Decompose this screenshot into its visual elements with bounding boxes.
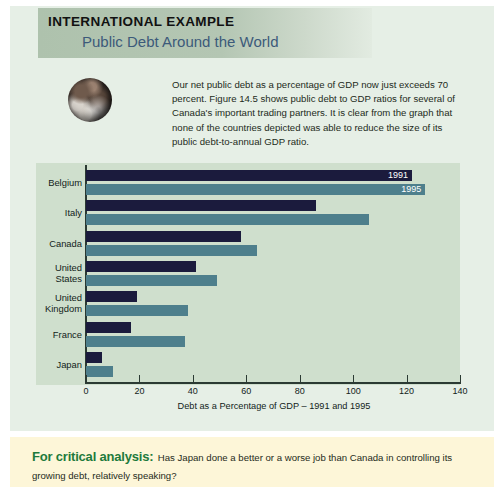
x-tick-mark <box>193 375 194 383</box>
x-tick-label: 40 <box>188 386 198 396</box>
legend-label-1991: 1991 <box>386 170 410 181</box>
bar-1995-france <box>86 336 185 347</box>
bar-1995-belgium <box>86 184 425 195</box>
eyebrow-title: INTERNATIONAL EXAMPLE <box>48 14 234 29</box>
bar-1991-italy <box>86 200 316 211</box>
chart-x-axis-title: Debt as a Percentage of GDP – 1991 and 1… <box>86 401 462 411</box>
bar-1991-japan <box>86 352 102 363</box>
x-tick-mark <box>407 375 408 383</box>
x-tick-label: 0 <box>83 386 88 396</box>
bar-1991-canada <box>86 231 241 242</box>
category-label-united-kingdom: UnitedKingdom <box>45 292 82 314</box>
bar-1991-united-kingdom <box>86 291 137 302</box>
bar-1991-united-states <box>86 261 196 272</box>
page-title: Public Debt Around the World <box>82 33 279 50</box>
x-tick-label: 120 <box>399 386 414 396</box>
figure-page: INTERNATIONAL EXAMPLE Public Debt Around… <box>0 0 504 494</box>
legend-label-1995: 1995 <box>399 184 423 195</box>
x-tick-mark <box>300 375 301 383</box>
category-label-canada: Canada <box>49 238 82 249</box>
x-tick-label: 60 <box>241 386 251 396</box>
x-tick-mark <box>86 375 87 383</box>
category-label-japan: Japan <box>56 359 82 370</box>
bar-1995-japan <box>86 366 113 377</box>
x-tick-label: 20 <box>134 386 144 396</box>
x-tick-label: 80 <box>295 386 305 396</box>
x-tick-label: 140 <box>452 386 467 396</box>
category-label-belgium: Belgium <box>48 177 82 188</box>
category-label-italy: Italy <box>65 207 82 218</box>
category-label-united-states: UnitedStates <box>55 262 82 284</box>
bar-1991-france <box>86 322 131 333</box>
critical-analysis-inner: For critical analysis: Has Japan done a … <box>32 447 480 483</box>
bar-1995-united-states <box>86 275 217 286</box>
x-tick-mark <box>246 375 247 383</box>
x-tick-mark <box>353 375 354 383</box>
bar-1995-italy <box>86 214 369 225</box>
bar-1991-belgium <box>86 170 412 181</box>
critical-analysis-label: For critical analysis: <box>32 449 153 464</box>
bar-1995-united-kingdom <box>86 305 188 316</box>
intro-paragraph: Our net public debt as a percentage of G… <box>172 78 468 149</box>
x-tick-mark <box>460 375 461 383</box>
x-tick-mark <box>139 375 140 383</box>
critical-analysis-box: For critical analysis: Has Japan done a … <box>10 437 494 487</box>
x-tick-label: 100 <box>346 386 361 396</box>
bar-1995-canada <box>86 245 257 256</box>
earth-globe-icon <box>68 78 112 122</box>
chart-x-axis <box>85 382 461 384</box>
category-label-france: France <box>53 329 82 340</box>
